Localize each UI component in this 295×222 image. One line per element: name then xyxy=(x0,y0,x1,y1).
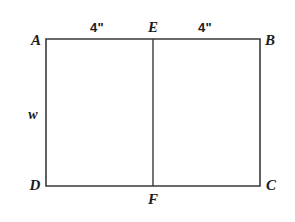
vertex-label-f: F xyxy=(148,192,158,207)
geometry-figure: A B C D E F w 4" 4" xyxy=(0,0,295,222)
vertex-label-a: A xyxy=(31,33,41,48)
measure-label-eb: 4" xyxy=(198,21,212,34)
vertex-label-d: D xyxy=(30,178,41,193)
side-label-width: w xyxy=(28,108,37,122)
vertex-label-c: C xyxy=(266,178,276,193)
measure-label-ae: 4" xyxy=(90,21,104,34)
vertex-label-b: B xyxy=(265,33,275,48)
vertex-label-e: E xyxy=(148,20,158,35)
